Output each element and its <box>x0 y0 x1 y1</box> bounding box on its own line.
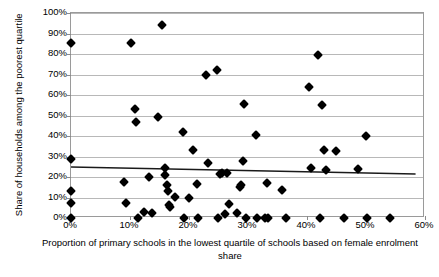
data-point <box>192 179 202 189</box>
data-point <box>121 198 131 208</box>
data-point <box>170 192 180 202</box>
data-point <box>240 99 250 109</box>
x-tick-label: 40% <box>296 219 315 230</box>
y-tick-label: 90% <box>35 28 67 38</box>
y-tick-label: 10% <box>35 192 67 202</box>
data-point <box>251 130 261 140</box>
data-point <box>144 172 154 182</box>
y-tick-label: 40% <box>35 130 67 140</box>
data-point <box>184 193 194 203</box>
data-point <box>331 146 341 156</box>
plot-area <box>70 12 424 217</box>
y-tick-label: 50% <box>35 110 67 120</box>
data-point <box>313 50 323 60</box>
data-point <box>130 104 140 114</box>
data-point <box>306 163 316 173</box>
data-point <box>262 178 272 188</box>
data-point <box>353 164 363 174</box>
y-axis-title: Share of households among the poorest qu… <box>0 0 36 230</box>
data-point <box>131 117 141 127</box>
x-axis-title-text: Proportion of primary schools in the low… <box>42 237 418 261</box>
data-point <box>319 145 329 155</box>
data-point <box>224 199 234 209</box>
data-point <box>188 145 198 155</box>
x-tick-label: 30% <box>237 219 256 230</box>
data-point <box>66 38 76 48</box>
y-axis-title-text: Share of households among the poorest qu… <box>12 14 24 217</box>
data-point <box>317 100 327 110</box>
x-tick-label: 10% <box>119 219 138 230</box>
x-axis-tick-labels: 0%10%20%30%40%50%60% <box>70 219 424 233</box>
data-point <box>66 198 76 208</box>
x-axis-title: Proportion of primary schools in the low… <box>30 237 430 262</box>
data-point <box>203 159 213 169</box>
data-point <box>66 154 76 164</box>
data-point <box>160 170 170 180</box>
data-point <box>66 186 76 196</box>
y-tick-label: 30% <box>35 151 67 161</box>
data-points <box>71 13 423 216</box>
data-point <box>201 70 211 80</box>
data-point <box>119 177 129 187</box>
data-point <box>322 165 332 175</box>
x-tick-label: 50% <box>355 219 374 230</box>
data-point <box>165 202 175 212</box>
data-point <box>157 20 167 30</box>
y-tick-label: 70% <box>35 69 67 79</box>
x-tick-label: 0% <box>63 219 77 230</box>
x-tick-label: 20% <box>178 219 197 230</box>
data-point <box>238 156 248 166</box>
data-point <box>304 82 314 92</box>
y-axis-tick-labels: 0%10%20%30%40%50%60%70%80%90%100% <box>33 0 67 277</box>
y-tick-label: 60% <box>35 89 67 99</box>
data-point <box>153 112 163 122</box>
y-tick-label: 20% <box>35 171 67 181</box>
data-point <box>277 185 287 195</box>
y-tick-label: 100% <box>35 7 67 17</box>
data-point <box>126 38 136 48</box>
data-point <box>212 65 222 75</box>
y-tick-label: 80% <box>35 48 67 58</box>
scatter-chart: Share of households among the poorest qu… <box>0 0 439 277</box>
data-point <box>178 127 188 137</box>
data-point <box>361 131 371 141</box>
data-point <box>222 168 232 178</box>
x-tick-label: 60% <box>414 219 433 230</box>
